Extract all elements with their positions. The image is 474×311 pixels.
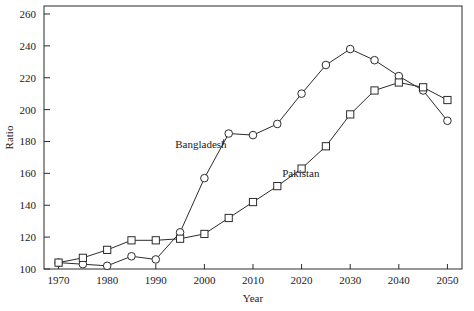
data-point-marker (249, 198, 256, 205)
x-tick-label: 1990 (145, 274, 168, 286)
y-tick-label: 180 (20, 135, 37, 147)
data-point-marker (176, 235, 183, 242)
data-point-marker (346, 45, 354, 53)
data-point-marker (274, 120, 282, 128)
data-point-marker (249, 131, 257, 139)
chart-container: 197019801990200020102020203020402050 100… (0, 0, 474, 311)
x-axis-title: Year (243, 292, 264, 304)
data-point-marker (371, 87, 378, 94)
data-point-marker (444, 96, 451, 103)
data-point-marker (371, 56, 379, 64)
series-pakistan (55, 79, 451, 266)
x-tick-label: 2020 (291, 274, 314, 286)
data-point-marker (444, 117, 452, 125)
series-bangladesh (55, 45, 451, 269)
data-point-marker (201, 174, 209, 182)
series-annotation-pakistan: Pakistan (282, 167, 320, 179)
data-point-marker (347, 111, 354, 118)
data-point-marker (152, 256, 160, 264)
data-point-marker (79, 254, 86, 261)
data-point-marker (225, 130, 233, 138)
y-axis-tick-labels: 100120140160180200220240260 (20, 8, 37, 275)
y-tick-label: 200 (20, 104, 37, 116)
data-point-marker (322, 143, 329, 150)
x-tick-label: 1980 (96, 274, 119, 286)
y-tick-label: 120 (20, 231, 37, 243)
data-point-marker (104, 246, 111, 253)
y-tick-label: 240 (20, 40, 37, 52)
x-axis-tick-labels: 197019801990200020102020203020402050 (48, 274, 459, 286)
data-point-marker (103, 262, 111, 270)
x-axis-ticks (59, 264, 448, 269)
x-tick-label: 2030 (339, 274, 362, 286)
data-point-marker (55, 259, 62, 266)
y-axis-ticks (44, 14, 50, 269)
y-tick-label: 100 (20, 263, 37, 275)
series-line (59, 49, 448, 266)
y-tick-label: 220 (20, 72, 37, 84)
data-point-marker (322, 61, 330, 69)
data-point-marker (225, 214, 232, 221)
ratio-line-chart: 197019801990200020102020203020402050 100… (0, 0, 474, 311)
x-tick-label: 2000 (193, 274, 216, 286)
data-point-marker (420, 84, 427, 91)
series-annotations: BangladeshPakistan (175, 138, 320, 179)
series-annotation-bangladesh: Bangladesh (175, 138, 227, 150)
x-tick-label: 1970 (48, 274, 71, 286)
y-axis-title: Ratio (3, 125, 15, 149)
series-line (59, 83, 448, 263)
data-point-marker (395, 79, 402, 86)
data-series-group (55, 45, 451, 269)
data-point-marker (128, 237, 135, 244)
data-point-marker (201, 230, 208, 237)
data-point-marker (152, 237, 159, 244)
x-tick-label: 2040 (388, 274, 411, 286)
data-point-marker (128, 252, 136, 260)
y-tick-label: 140 (20, 199, 37, 211)
x-tick-label: 2050 (436, 274, 459, 286)
x-tick-label: 2010 (242, 274, 265, 286)
y-tick-label: 160 (20, 167, 37, 179)
data-point-marker (298, 90, 306, 98)
data-point-marker (274, 183, 281, 190)
y-tick-label: 260 (20, 8, 37, 20)
